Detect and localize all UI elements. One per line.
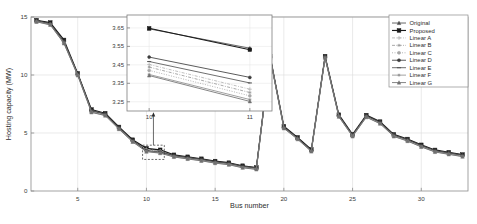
x-tick-label: 30 bbox=[418, 195, 425, 202]
inset-axes: 10113.253.353.453.553.65 bbox=[112, 15, 272, 120]
marker-circle bbox=[248, 94, 251, 97]
x-tick-label: 10 bbox=[143, 195, 150, 202]
legend-item-label: Linear D bbox=[410, 57, 432, 63]
marker-circle bbox=[148, 56, 151, 59]
marker-circle bbox=[397, 59, 400, 62]
inset-y-tick-label: 3.35 bbox=[112, 80, 124, 86]
legend-item-label: Linear G bbox=[410, 80, 433, 86]
marker-square bbox=[248, 48, 252, 52]
marker-circle bbox=[397, 51, 400, 54]
marker-circle bbox=[248, 76, 251, 79]
inset-x-tick-label: 11 bbox=[247, 114, 254, 120]
y-tick-label: 10 bbox=[21, 71, 28, 78]
marker-square bbox=[147, 26, 151, 30]
inset-y-tick-label: 3.55 bbox=[112, 43, 124, 49]
x-tick-label: 25 bbox=[349, 195, 356, 202]
legend-item-label: Linear E bbox=[410, 65, 432, 71]
y-tick-label: 5 bbox=[24, 129, 28, 136]
figure-container: 51015202530051015Bus numberHosting capac… bbox=[0, 0, 477, 224]
legend[interactable]: OriginalProposedLinear ALinear BLinear C… bbox=[389, 15, 468, 87]
legend-item-label: Proposed bbox=[410, 28, 435, 34]
y-tick-label: 0 bbox=[24, 187, 28, 194]
y-tick-label: 15 bbox=[21, 13, 28, 20]
x-tick-label: 15 bbox=[212, 195, 219, 202]
chart-svg: 51015202530051015Bus numberHosting capac… bbox=[0, 0, 477, 224]
legend-item-label: Linear F bbox=[410, 72, 432, 78]
inset-y-tick-label: 3.25 bbox=[112, 99, 124, 105]
legend-item-label: Linear C bbox=[410, 50, 433, 56]
marker-circle bbox=[148, 69, 151, 72]
inset-y-tick-label: 3.45 bbox=[112, 62, 124, 68]
x-axis-label: Bus number bbox=[230, 201, 269, 210]
x-tick-label: 5 bbox=[76, 195, 80, 202]
x-tick-label: 20 bbox=[280, 195, 287, 202]
marker-square bbox=[397, 29, 401, 33]
inset-x-tick-label: 10 bbox=[146, 114, 153, 120]
legend-item-label: Original bbox=[410, 20, 430, 26]
legend-item-label: Linear A bbox=[410, 35, 432, 41]
legend-item-label: Linear B bbox=[410, 42, 432, 48]
y-axis-label: Hosting capacity (MW) bbox=[4, 68, 13, 140]
marker-star bbox=[397, 44, 400, 47]
inset-y-tick-label: 3.65 bbox=[112, 25, 124, 31]
